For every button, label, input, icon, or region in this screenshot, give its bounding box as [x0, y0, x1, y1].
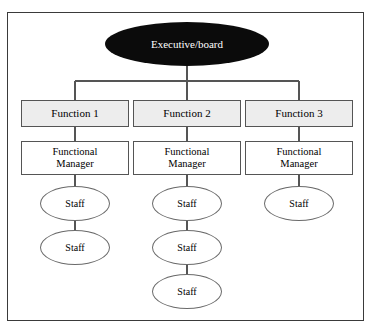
staff-node-2-2-label: Staff [177, 242, 196, 253]
manager-box-2[interactable]: Functional Manager [133, 141, 241, 175]
function-box-1[interactable]: Function 1 [21, 100, 129, 127]
manager-box-1-line1: Functional [53, 146, 98, 158]
staff-node-2-1-label: Staff [177, 198, 196, 209]
function-box-3[interactable]: Function 3 [245, 100, 353, 127]
executive-board-label: Executive/board [151, 38, 223, 50]
manager-box-1[interactable]: Functional Manager [21, 141, 129, 175]
staff-node-2-2[interactable]: Staff [152, 230, 222, 265]
staff-node-2-3-label: Staff [177, 286, 196, 297]
function-box-2-label: Function 2 [163, 107, 210, 119]
staff-node-3-1[interactable]: Staff [264, 186, 334, 221]
staff-node-3-1-label: Staff [289, 198, 308, 209]
manager-box-2-line2: Manager [168, 158, 205, 170]
manager-box-3-line1: Functional [277, 146, 322, 158]
function-box-1-label: Function 1 [51, 107, 98, 119]
manager-box-3[interactable]: Functional Manager [245, 141, 353, 175]
staff-node-1-2[interactable]: Staff [40, 230, 110, 265]
staff-node-1-1[interactable]: Staff [40, 186, 110, 221]
staff-node-2-1[interactable]: Staff [152, 186, 222, 221]
manager-box-3-line2: Manager [280, 158, 317, 170]
staff-node-1-2-label: Staff [65, 242, 84, 253]
manager-box-2-line1: Functional [165, 146, 210, 158]
function-box-2[interactable]: Function 2 [133, 100, 241, 127]
staff-node-2-3[interactable]: Staff [152, 274, 222, 309]
staff-node-1-1-label: Staff [65, 198, 84, 209]
manager-box-1-line2: Manager [56, 158, 93, 170]
diagram-canvas: Executive/board Function 1 Functional Ma… [0, 0, 372, 335]
executive-board-node[interactable]: Executive/board [105, 22, 269, 66]
function-box-3-label: Function 3 [275, 107, 322, 119]
